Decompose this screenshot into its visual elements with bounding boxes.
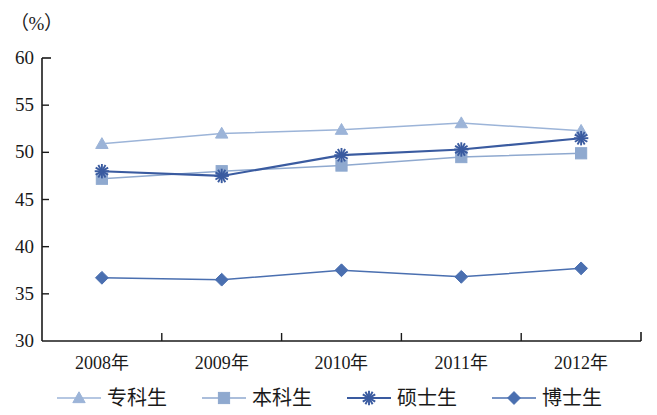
y-axis-tick-label: 55 [0,95,34,114]
y-axis-tick-label: 40 [0,237,34,256]
triangle-marker-icon [56,388,102,408]
data-series [96,262,588,286]
x-axis-tick-label: 2010年 [282,354,402,372]
y-axis-tick-label: 50 [0,142,34,161]
line-chart: （%） 30354045505560 2008年2009年2010年2011年2… [0,0,657,415]
legend-item-asterisk[interactable]: 硕士生 [346,388,457,408]
legend-item-square[interactable]: 本科生 [201,388,312,408]
y-axis-unit-label: （%） [10,8,62,35]
square-marker-icon [201,388,247,408]
legend-item-label: 硕士生 [395,388,457,408]
legend-item-triangle[interactable]: 专科生 [56,388,167,408]
asterisk-marker-icon [346,388,392,408]
y-axis-tick-label: 45 [0,190,34,209]
y-axis-tick-label: 35 [0,284,34,303]
legend-item-diamond[interactable]: 博士生 [491,388,602,408]
y-axis-tick-label: 30 [0,331,34,350]
diamond-marker-icon [491,388,537,408]
x-axis-ticks [162,333,521,341]
x-axis-tick-label: 2008年 [42,354,162,372]
y-axis-ticks [42,105,49,294]
chart-axes [42,58,641,341]
x-axis-tick-label: 2011年 [401,354,521,372]
x-axis-tick-label: 2009年 [162,354,282,372]
chart-legend: 专科生本科生硕士生博士生 [0,381,657,415]
y-axis-tick-label: 60 [0,48,34,67]
x-axis-tick-label: 2012年 [521,354,641,372]
legend-item-label: 本科生 [250,388,312,408]
legend-item-label: 博士生 [540,388,602,408]
legend-item-label: 专科生 [105,388,167,408]
